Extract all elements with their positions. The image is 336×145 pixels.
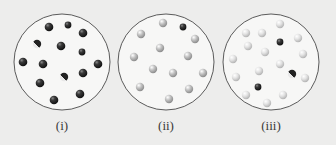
particle-dark — [79, 29, 88, 38]
panel-label-i: (i) — [32, 118, 92, 134]
particle-light — [149, 65, 157, 73]
particle-pale — [276, 20, 284, 28]
particle-dark — [79, 69, 88, 78]
container-circle — [223, 14, 319, 110]
particle-pale — [229, 55, 237, 63]
panel-iii — [223, 14, 319, 110]
particle-dark — [57, 42, 66, 51]
particle-dark — [50, 96, 59, 105]
particle-light — [191, 35, 199, 43]
particle-dark — [39, 60, 48, 69]
particle-dark — [94, 60, 103, 69]
particle-dark-mixed — [288, 70, 296, 78]
particle-light — [137, 30, 145, 38]
particle-pale — [294, 34, 302, 42]
particle-pale — [261, 48, 269, 56]
particle-dark-small — [255, 84, 262, 91]
particle-dark-mixed — [60, 73, 68, 81]
particle-light — [165, 95, 173, 103]
particle-light — [185, 85, 193, 93]
particle-pale — [255, 67, 263, 75]
particle-dark — [45, 23, 54, 32]
particle-dark-small — [180, 24, 187, 31]
panel-label-iii: (iii) — [241, 118, 301, 134]
particle-dark-mixed — [33, 40, 41, 48]
particle-dark-small — [79, 49, 86, 56]
particle-pale — [263, 99, 271, 107]
particle-pale — [242, 91, 250, 99]
particle-pale — [279, 91, 287, 99]
particle-pale — [299, 50, 307, 58]
panel-label-ii: (ii) — [136, 118, 196, 134]
panel-i — [14, 14, 110, 110]
particle-pale — [276, 60, 284, 68]
particle-light — [130, 53, 138, 61]
particle-light — [199, 69, 207, 77]
particle-pale — [244, 42, 252, 50]
particle-dark — [36, 79, 45, 88]
particle-pale — [242, 29, 250, 37]
particle-light — [169, 69, 177, 77]
particle-light — [136, 83, 144, 91]
particle-light — [159, 19, 167, 27]
particle-dark-small — [65, 22, 72, 29]
particle-light — [184, 52, 192, 60]
particle-dark — [19, 58, 28, 67]
particle-pale — [258, 29, 266, 37]
particle-pale — [232, 73, 240, 81]
panel-ii — [118, 14, 214, 110]
container-circle — [118, 14, 214, 110]
particle-pale — [301, 74, 309, 82]
particle-light — [156, 44, 164, 52]
particle-dark — [76, 90, 85, 99]
particle-dark-small — [277, 39, 284, 46]
